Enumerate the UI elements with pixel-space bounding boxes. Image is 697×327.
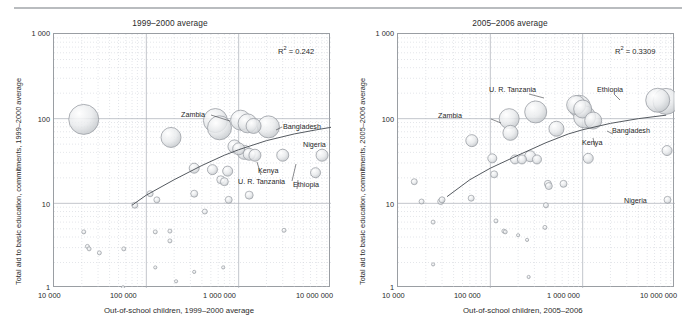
- panel-left-xtick-1000000: 1 000 000: [203, 291, 236, 300]
- panel-right-xtick-1000000: 1 000 000: [547, 291, 580, 300]
- panel-right-xtick-10000000: 10 000 000: [640, 291, 677, 300]
- panel-left-title: 1999–2000 average: [5, 18, 335, 28]
- panel-left-xtick-10000: 10 000: [38, 291, 61, 300]
- panel-left-ytick-1000: 1 000: [22, 29, 50, 38]
- panel-left-label-nigeria: Nigeria: [303, 140, 326, 149]
- chart-panel-right: 2005–2006 average Total aid to basic edu…: [350, 0, 697, 327]
- r2-value: = 0.3309: [624, 47, 656, 56]
- panel-right-label-kenya: Kenya: [582, 138, 602, 147]
- panel-right-r2-annotation: R2 = 0.3309: [615, 45, 656, 56]
- panel-right-title: 2005–2006 average: [350, 18, 670, 28]
- chart-panel-left: 1999–2000 average Total aid to basic edu…: [0, 0, 350, 327]
- panel-left-canvas: [54, 34, 331, 288]
- panel-right-label-nigeria: Nigeria: [624, 196, 647, 205]
- panel-left-plot-area: [53, 33, 330, 287]
- panel-right-xtick-10000: 10 000: [382, 291, 405, 300]
- r2-value: = 0.242: [287, 47, 315, 56]
- panel-right-xtick-100000: 100 000: [454, 291, 481, 300]
- panel-left-xtick-100000: 100 000: [110, 291, 137, 300]
- panel-right-canvas: [398, 34, 675, 288]
- panel-right-label-ethiopia: Ethiopia: [597, 85, 623, 94]
- panel-left-x-axis-title: Out-of-school children, 1999–2000 averag…: [104, 306, 254, 315]
- panel-right-label-zambia: Zambia: [438, 111, 462, 120]
- panel-right-ytick-100: 100: [366, 115, 394, 124]
- panel-right-label-ur-tanzania: U. R. Tanzania: [489, 85, 536, 94]
- panel-right-ytick-1000: 1 000: [366, 29, 394, 38]
- panel-right-plot-area: [397, 33, 674, 287]
- panel-right-x-axis-title: Out-of-school children, 2005–2006: [463, 306, 583, 315]
- panel-left-ytick-10: 10: [22, 200, 50, 209]
- panel-left-label-ur-tanzania: U. R. Tanzania: [238, 177, 285, 186]
- panel-left-label-kenya: Kenya: [258, 166, 278, 175]
- panel-right-y-axis-title: Total aid to basic education, commitment…: [358, 78, 367, 285]
- panel-right-ytick-10: 10: [366, 200, 394, 209]
- panel-left-y-axis-title: Total aid to basic education, commitment…: [14, 78, 23, 285]
- panel-left-xtick-10000000: 10 000 000: [296, 291, 333, 300]
- panel-right-label-bangladesh: Bangladesh: [612, 126, 650, 135]
- panel-left-ytick-100: 100: [22, 115, 50, 124]
- panel-left-label-zambia: Zambia: [181, 110, 205, 119]
- panel-left-label-bangladesh: Bangladesh: [283, 122, 321, 131]
- panel-left-label-ethiopia: Ethiopia: [293, 180, 319, 189]
- panel-left-r2-annotation: R2 = 0.242: [278, 45, 314, 56]
